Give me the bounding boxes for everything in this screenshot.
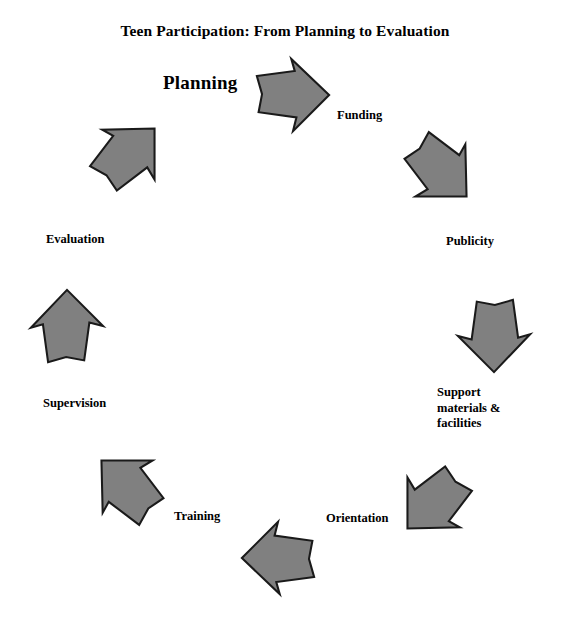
node-label-supervision: Supervision xyxy=(43,396,106,412)
node-label-publicity: Publicity xyxy=(446,234,494,250)
node-label-planning: Planning xyxy=(163,72,237,94)
node-label-support-materials: Support materials & facilities xyxy=(437,385,501,432)
cycle-arrow-supervision xyxy=(24,283,110,369)
cycle-arrow-planning xyxy=(250,52,336,138)
cycle-arrow-evaluation xyxy=(68,93,190,215)
cycle-arrow-training xyxy=(66,425,188,547)
node-label-funding: Funding xyxy=(337,108,382,124)
page-title: Teen Participation: From Planning to Eva… xyxy=(0,22,570,40)
cycle-arrow-publicity xyxy=(451,293,537,379)
cycle-arrow-support-materials xyxy=(372,442,494,564)
cycle-arrow-orientation xyxy=(235,515,321,601)
diagram-canvas: Teen Participation: From Planning to Eva… xyxy=(0,0,570,631)
node-label-training: Training xyxy=(174,509,220,525)
node-label-orientation: Orientation xyxy=(326,511,389,527)
cycle-arrow-funding xyxy=(380,110,502,232)
node-label-evaluation: Evaluation xyxy=(46,232,104,248)
